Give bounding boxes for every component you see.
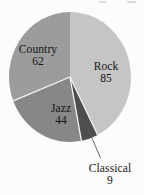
- slice-label-classical: Classical 9: [89, 162, 131, 186]
- pie-chart-figure: Country 62 Rock 85 Jazz 44 Classical 9: [0, 0, 144, 195]
- slice-name: Jazz: [51, 102, 71, 114]
- slice-label-jazz: Jazz 44: [51, 102, 71, 126]
- slice-label-rock: Rock 85: [94, 60, 119, 84]
- slice-value: 9: [89, 174, 131, 186]
- slice-name: Classical: [89, 162, 131, 174]
- slice-name: Rock: [94, 60, 119, 72]
- slice-value: 44: [51, 114, 71, 126]
- slice-label-country: Country 62: [19, 43, 57, 67]
- slice-value: 62: [19, 55, 57, 67]
- slice-value: 85: [94, 72, 119, 84]
- slice-name: Country: [19, 43, 57, 55]
